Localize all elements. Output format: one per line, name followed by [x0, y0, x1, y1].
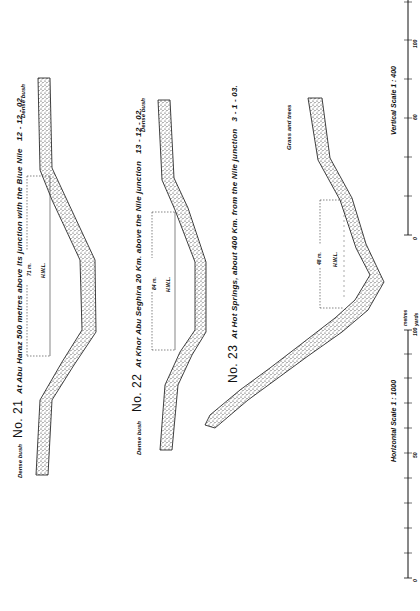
section-22-title: No. 22At Khor Abu Seghira 20 Km. above t… [130, 108, 144, 412]
section-22-width-label: 84 m. [151, 277, 157, 290]
section-21-left-bank-label: Dense bush [17, 444, 23, 478]
section-21-hwl-label: H.W.L. [40, 263, 46, 278]
section-23-hwl-label: H.W.L. [332, 252, 338, 267]
section-21-right-bank-label: Dense bush [20, 84, 26, 118]
horizontal-scale-label: Horizontal Scale 1 : 1000 [390, 380, 397, 462]
horizontal-scale-bar [404, 330, 412, 578]
horizontal-scale-yards-unit: yards [413, 313, 419, 326]
horizontal-scale-zero: 0 [412, 579, 418, 582]
vertical-scale-label: Vertical Scale 1 : 400 [390, 66, 397, 135]
cross-sections-drawing [0, 0, 420, 611]
section-23-right-bank-label: Grass and trees [286, 105, 292, 150]
section-21-width-label: 71 m. [26, 263, 32, 276]
vertical-scale-zero: 0 [412, 237, 418, 240]
section-22-profile [152, 100, 206, 450]
horizontal-scale-50: 50 [412, 452, 418, 458]
section-23-width-label: 48 m. [316, 252, 322, 265]
section-21-title: No. 21At Abu Haraz 500 metres above its … [11, 95, 25, 438]
section-22-hwl-label: H.W.L. [165, 277, 171, 292]
section-21-profile [27, 78, 96, 475]
section-22-right-bank-label: Dense bush [140, 98, 146, 132]
vertical-scale-bar [404, 0, 412, 235]
section-23-title: No. 23At Hot Springs, about 400 Km. from… [226, 85, 240, 383]
horizontal-scale-metres-unit: metres [402, 310, 408, 326]
horizontal-scale-100: 100 [412, 328, 418, 336]
section-22-left-bank-label: Dense bush [136, 421, 142, 455]
vertical-scale-100: 100 [412, 40, 418, 48]
vertical-scale-mid: 60 [412, 114, 418, 120]
